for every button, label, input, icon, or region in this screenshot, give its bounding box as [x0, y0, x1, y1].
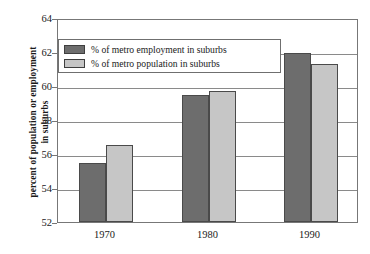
- x-axis-tick-label: 1990: [275, 229, 345, 240]
- legend-item[interactable]: % of metro population in suburbs: [64, 57, 275, 70]
- y-axis-tick-label: 54: [12, 184, 52, 195]
- bar: [209, 91, 236, 222]
- bar-chart: percent of population or employment in s…: [0, 0, 370, 254]
- y-axis-tick-label: 62: [12, 48, 52, 59]
- x-axis-tick-label: 1970: [70, 229, 140, 240]
- legend-item[interactable]: % of metro employment in suburbs: [64, 43, 275, 56]
- y-axis-tick-label: 52: [12, 218, 52, 229]
- y-axis-tick-label: 56: [12, 150, 52, 161]
- legend-swatch-employment: [64, 45, 85, 54]
- x-axis-tick-label: 1980: [173, 229, 243, 240]
- bar: [311, 64, 338, 222]
- y-axis-tick-label: 64: [12, 14, 52, 25]
- legend-swatch-population: [64, 59, 85, 68]
- bar: [106, 145, 133, 222]
- bar: [284, 53, 311, 222]
- legend-label-employment: % of metro employment in suburbs: [91, 45, 227, 55]
- y-axis-tick-mark: [52, 223, 57, 224]
- bar: [182, 95, 209, 222]
- y-axis-tick-label: 58: [12, 116, 52, 127]
- bar: [79, 163, 106, 223]
- legend-label-population: % of metro population in suburbs: [91, 59, 220, 69]
- y-axis-tick-label: 60: [12, 82, 52, 93]
- chart-legend: % of metro employment in suburbs % of me…: [58, 39, 281, 73]
